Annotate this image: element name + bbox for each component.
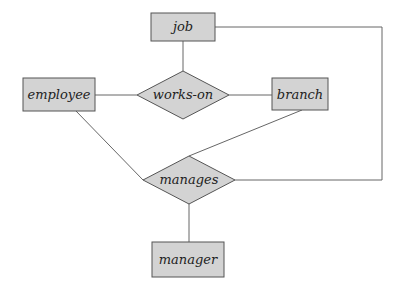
entity-manager-label: manager xyxy=(152,253,224,266)
entity-branch-label: branch xyxy=(272,88,328,101)
relationship-works-on-label: works-on xyxy=(137,88,229,101)
edge-branch-manages xyxy=(189,110,302,156)
er-diagram: job employee branch manager works-on man… xyxy=(0,0,398,286)
edge-employee-manages xyxy=(76,111,143,180)
diagram-graphics xyxy=(0,0,398,286)
entity-job-label: job xyxy=(151,20,215,33)
relationship-manages-label: manages xyxy=(143,173,235,186)
entity-employee-label: employee xyxy=(23,88,95,101)
